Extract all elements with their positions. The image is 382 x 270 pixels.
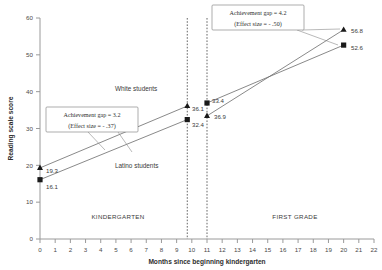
point-label-latino-2: 36.9	[214, 113, 226, 120]
latino-marker-3	[341, 43, 346, 48]
x-tick-label: 16	[279, 246, 286, 253]
x-tick-label: 11	[204, 246, 211, 253]
x-tick-label: 15	[264, 246, 271, 253]
region-label-first-grade: FIRST GRADE	[272, 213, 317, 220]
y-tick-label: 60	[26, 14, 33, 21]
x-tick-label: 7	[145, 246, 149, 253]
white-line-first-grade	[207, 30, 344, 116]
annotation-first-grade-line2: (Effect size = - .50)	[234, 21, 281, 28]
white-marker-3	[341, 26, 347, 31]
x-tick-label: 13	[234, 246, 241, 253]
x-axis-ticks	[40, 239, 374, 243]
x-tick-label: 20	[340, 246, 347, 253]
point-label-white-0: 19.3	[46, 167, 58, 174]
x-tick-label: 17	[295, 246, 302, 253]
latino-marker-2	[204, 100, 209, 105]
series-label-white-students: White students	[115, 85, 157, 92]
y-tick-label: 10	[26, 198, 33, 205]
point-label-latino-1: 32.4	[192, 121, 204, 128]
white-marker-2	[204, 113, 210, 118]
x-tick-label: 8	[160, 246, 164, 253]
x-tick-label: 0	[38, 246, 42, 253]
point-label-latino-3: 52.6	[351, 44, 363, 51]
y-tick-label: 20	[26, 162, 33, 169]
latino-marker-1	[185, 117, 190, 122]
y-axis-ticks	[36, 18, 40, 239]
y-tick-label: 50	[26, 51, 33, 58]
x-axis-tick-labels: 0 1 2 3 4 5 6 7 8 9 10 11 12 13 14 15 16…	[38, 246, 378, 253]
y-axis-title: Reading scale score	[7, 96, 15, 160]
x-tick-label: 12	[219, 246, 226, 253]
x-tick-label: 10	[188, 246, 195, 253]
line-chart-svg: 0 10 20 30 40 50 60 Reading scale score	[0, 0, 382, 270]
chart-figure: 0 10 20 30 40 50 60 Reading scale score	[0, 0, 382, 270]
annotation-kindergarten-line1: Achievement gap = 3.2	[64, 112, 121, 118]
white-marker-1	[184, 103, 190, 108]
latino-marker-0	[37, 177, 42, 182]
series-label-latino-students: Latino students	[115, 162, 158, 169]
x-tick-label: 19	[325, 246, 332, 253]
y-tick-label: 0	[30, 235, 34, 242]
point-label-white-1: 36.1	[192, 105, 204, 112]
annotation-kindergarten-line2: (Effect size = - .37)	[68, 123, 115, 130]
latino-line-first-grade	[207, 45, 344, 103]
annotation-first-grade-line1: Achievement gap = 4.2	[230, 10, 287, 16]
x-axis-title: Months since beginning kindergarten	[148, 258, 265, 266]
x-tick-label: 6	[129, 246, 133, 253]
x-tick-label: 21	[355, 246, 362, 253]
x-tick-label: 5	[114, 246, 118, 253]
x-tick-label: 14	[249, 246, 256, 253]
series-white-students	[37, 26, 347, 170]
region-label-kindergarten: KINDERGARTEN	[91, 213, 144, 220]
x-tick-label: 2	[69, 246, 73, 253]
y-axis-tick-labels: 0 10 20 30 40 50 60	[26, 14, 33, 242]
x-tick-label: 18	[310, 246, 317, 253]
y-tick-label: 40	[26, 88, 33, 95]
point-label-white-3: 56.8	[351, 27, 363, 34]
x-tick-label: 22	[371, 246, 378, 253]
x-tick-label: 3	[84, 246, 88, 253]
point-label-latino-0: 16.1	[46, 183, 58, 190]
y-tick-label: 30	[26, 125, 33, 132]
x-tick-label: 9	[175, 246, 179, 253]
x-tick-label: 1	[53, 246, 57, 253]
annotation-gap-first-grade: Achievement gap = 4.2 (Effect size = - .…	[212, 5, 340, 45]
point-label-white-2: 33.4	[212, 97, 224, 104]
x-tick-label: 4	[99, 246, 103, 253]
